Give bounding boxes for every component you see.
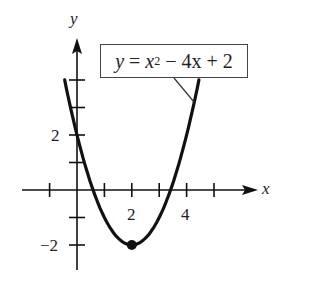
x-axis-label: x [262,180,270,197]
equation-x: x [145,50,154,73]
equation-rest: − 4x + 2 [160,50,233,73]
equation-callout-box: y = x2 − 4x + 2 [100,44,248,78]
vertex-point [127,240,137,250]
x-tick-label-2: 2 [127,206,136,223]
equation-equals: = [124,50,145,73]
x-tick-label-4: 4 [181,206,190,223]
callout-leader-line [174,78,194,102]
equation-lhs: y [115,50,124,73]
y-tick-label-2: 2 [51,127,60,144]
y-tick-label-neg2: −2 [40,237,58,254]
y-axis-label: y [70,10,78,27]
